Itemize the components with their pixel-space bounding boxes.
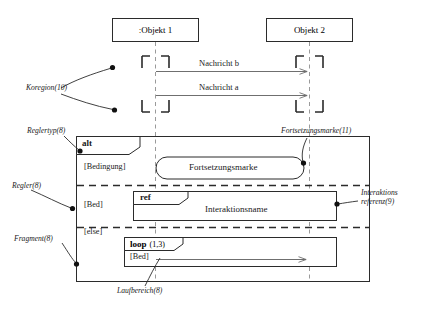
annotation-dot-fragment — [74, 261, 79, 266]
annotation-fragment: Fragment(8) — [14, 235, 53, 243]
annotation-leader-interaktionsreferenz — [338, 201, 358, 204]
annotation-leader-fortsetzungsmarke — [302, 138, 307, 162]
annotation-regler: Regler(8) — [12, 182, 41, 190]
alt-operator-label: alt — [82, 139, 92, 148]
operand-guard-else: [else] — [84, 228, 102, 237]
annotation-leader-regler — [31, 190, 71, 208]
message-label-a: Nachricht a — [199, 83, 238, 92]
operand-guard-bed: [Bed] — [84, 201, 103, 210]
uml-sequence-diagram: :Objekt 1 Objekt 2 Nachricht b Nachricht… — [0, 0, 421, 314]
annotation-reglertyp: Reglertyp(8) — [27, 127, 65, 135]
loop-operator-group: loop (1,3) — [130, 239, 165, 249]
ref-operator-label: ref — [140, 193, 151, 202]
lifeline-label-obj1: :Objekt 1 — [139, 25, 173, 35]
annotation-dot-koregion-top — [110, 65, 115, 70]
annotation-leader-fragment — [62, 243, 76, 263]
message-label-b: Nachricht b — [199, 59, 239, 68]
loop-inner-guard: [Bed] — [130, 253, 149, 262]
annotation-dot-regler — [70, 206, 75, 211]
diagram-vector-layer — [0, 0, 421, 314]
annotation-dot-reglertyp — [77, 148, 82, 153]
annotation-interaktionsreferenz: Interaktions referenz(9) — [361, 188, 421, 207]
annotation-dot-fortsetzungsmarke — [301, 160, 306, 165]
loop-operator-args: (1,3) — [150, 240, 165, 249]
lifeline-label-obj2: Objekt 2 — [294, 25, 325, 35]
annotation-dot-koregion-bottom — [112, 107, 117, 112]
lifeline-head-obj1[interactable]: :Objekt 1 — [112, 18, 199, 42]
annotation-dot-interaktionsreferenz — [334, 201, 339, 206]
lifeline-head-obj2[interactable]: Objekt 2 — [266, 18, 353, 42]
annotation-laufbereich: Laufbereich(8) — [117, 287, 162, 295]
operand-guard-bedingung: [Bedingung] — [84, 163, 125, 172]
continuation-label: Fortsetzungsmarke — [189, 163, 257, 172]
ref-interaction-name: Interaktionsname — [205, 205, 267, 214]
loop-operator-label: loop — [130, 239, 147, 249]
annotation-fortsetzungsmarke: Fortsetzungsmarke(11) — [281, 127, 351, 135]
annotation-leader-koregion — [61, 69, 113, 110]
annotation-koregion: Koregion(10) — [26, 84, 67, 92]
